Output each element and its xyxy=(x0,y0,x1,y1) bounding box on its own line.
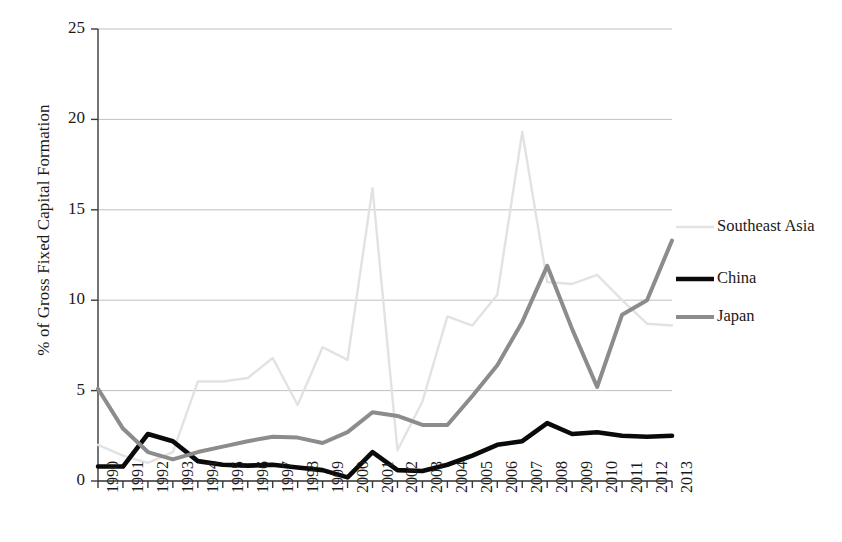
y-tick-label: 5 xyxy=(41,380,85,400)
x-tick-label: 2005 xyxy=(478,461,496,493)
legend-label-japan: Japan xyxy=(717,306,755,326)
legend-label-southeast-asia: Southeast Asia xyxy=(717,216,815,236)
chart-figure: % of Gross Fixed Capital Formation 05101… xyxy=(0,0,842,542)
x-tick-label: 2001 xyxy=(379,461,397,493)
series-line-japan xyxy=(98,241,672,460)
x-tick-label: 1997 xyxy=(279,461,297,493)
x-tick-label: 2002 xyxy=(403,461,421,493)
x-tick-label: 2007 xyxy=(528,461,546,493)
x-tick-label: 2012 xyxy=(653,461,671,493)
x-tick-label: 2013 xyxy=(678,461,696,493)
y-axis-label: % of Gross Fixed Capital Formation xyxy=(34,0,60,480)
legend-label-china: China xyxy=(717,268,756,288)
x-tick-label: 2009 xyxy=(578,461,596,493)
x-tick-label: 1996 xyxy=(254,461,272,493)
x-tick-label: 1998 xyxy=(304,461,322,493)
y-tick-label: 0 xyxy=(41,470,85,490)
x-tick-label: 2008 xyxy=(553,461,571,493)
x-tick-label: 1993 xyxy=(179,461,197,493)
chart-plot-area xyxy=(0,0,842,542)
x-tick-label: 2006 xyxy=(503,461,521,493)
x-tick-label: 1992 xyxy=(154,461,172,493)
y-tick-label: 10 xyxy=(41,289,85,309)
x-tick-label: 1994 xyxy=(204,461,222,493)
x-tick-label: 1990 xyxy=(104,461,122,493)
y-tick-label: 25 xyxy=(41,18,85,38)
x-tick-label: 2010 xyxy=(603,461,621,493)
x-tick-label: 2000 xyxy=(354,461,372,493)
y-tick-label: 15 xyxy=(41,199,85,219)
x-tick-label: 2003 xyxy=(428,461,446,493)
x-tick-label: 1991 xyxy=(129,461,147,493)
y-tick-label: 20 xyxy=(41,108,85,128)
x-tick-label: 1999 xyxy=(329,461,347,493)
x-tick-label: 2004 xyxy=(453,461,471,493)
x-tick-label: 1995 xyxy=(229,461,247,493)
x-tick-label: 2011 xyxy=(628,462,646,493)
